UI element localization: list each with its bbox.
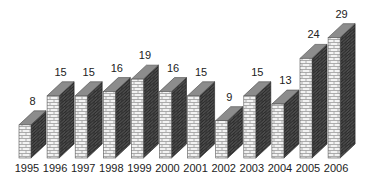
value-label: 29 bbox=[335, 8, 347, 20]
value-label: 15 bbox=[54, 66, 66, 78]
x-tick-label: 2001 bbox=[183, 162, 207, 174]
bar-front bbox=[272, 104, 284, 158]
x-tick-label: 1998 bbox=[99, 162, 123, 174]
bar-side bbox=[340, 24, 355, 158]
bar-side bbox=[143, 65, 158, 158]
x-tick-label: 1996 bbox=[43, 162, 67, 174]
bar-front bbox=[47, 96, 59, 158]
value-label: 15 bbox=[83, 66, 95, 78]
x-tick-label: 2004 bbox=[268, 162, 292, 174]
value-label: 9 bbox=[226, 91, 232, 103]
bar-side bbox=[312, 44, 327, 158]
bar-front bbox=[300, 58, 312, 158]
bar-2000 bbox=[160, 78, 187, 158]
value-label: 24 bbox=[307, 28, 319, 40]
x-tick-label: 2005 bbox=[296, 162, 320, 174]
bar-front bbox=[131, 79, 143, 158]
bar-front bbox=[328, 38, 340, 158]
bar-1996 bbox=[47, 82, 74, 158]
bar-1999 bbox=[131, 65, 158, 158]
bar-2005 bbox=[300, 44, 327, 158]
x-tick-label: 2002 bbox=[211, 162, 235, 174]
x-tick-label: 1995 bbox=[15, 162, 39, 174]
value-label: 8 bbox=[29, 95, 35, 107]
x-tick-label: 2003 bbox=[240, 162, 264, 174]
value-label: 19 bbox=[139, 49, 151, 61]
bar-2001 bbox=[188, 82, 215, 158]
bar-front bbox=[103, 92, 115, 158]
bar-front bbox=[19, 125, 31, 158]
bar-front bbox=[160, 92, 172, 158]
bar-2002 bbox=[216, 107, 243, 158]
value-label: 16 bbox=[167, 62, 179, 74]
value-label: 16 bbox=[111, 62, 123, 74]
x-tick-label: 2000 bbox=[155, 162, 179, 174]
bar-front bbox=[244, 96, 256, 158]
x-axis-labels: 1995199619971998199920002001200220032004… bbox=[15, 162, 349, 174]
brick-column-chart: 8151516191615915132429 19951996199719981… bbox=[0, 0, 372, 182]
x-tick-label: 2006 bbox=[324, 162, 348, 174]
x-tick-label: 1997 bbox=[71, 162, 95, 174]
bar-front bbox=[75, 96, 87, 158]
bars-group bbox=[19, 24, 355, 158]
bar-1995 bbox=[19, 111, 46, 158]
bar-2004 bbox=[272, 90, 299, 158]
value-label: 15 bbox=[251, 66, 263, 78]
value-label: 15 bbox=[195, 66, 207, 78]
bar-front bbox=[188, 96, 200, 158]
x-tick-label: 1999 bbox=[127, 162, 151, 174]
bar-1997 bbox=[75, 82, 102, 158]
value-label: 13 bbox=[279, 74, 291, 86]
bar-2006 bbox=[328, 24, 355, 158]
bar-2003 bbox=[244, 82, 271, 158]
bar-front bbox=[216, 121, 228, 158]
bar-1998 bbox=[103, 78, 130, 158]
